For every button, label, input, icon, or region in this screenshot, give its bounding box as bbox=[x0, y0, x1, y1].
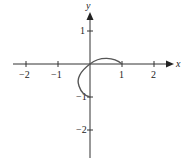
y-axis-arrow-icon bbox=[87, 12, 94, 20]
chart: x −2 −1 1 2 y 1 −1 −2 bbox=[0, 0, 184, 158]
x-axis: x −2 −1 1 2 bbox=[13, 58, 181, 80]
x-tick-label: −2 bbox=[19, 69, 30, 80]
x-axis-label: x bbox=[175, 58, 181, 69]
y-tick-label: −1 bbox=[76, 91, 87, 102]
x-tick-label: 2 bbox=[151, 69, 156, 80]
x-axis-arrow-icon bbox=[166, 61, 174, 68]
x-tick-label: 1 bbox=[119, 69, 124, 80]
y-tick-label: 1 bbox=[80, 25, 85, 36]
y-tick-label: −2 bbox=[76, 124, 87, 135]
y-axis-label: y bbox=[85, 0, 91, 11]
x-tick-label: −1 bbox=[51, 69, 62, 80]
